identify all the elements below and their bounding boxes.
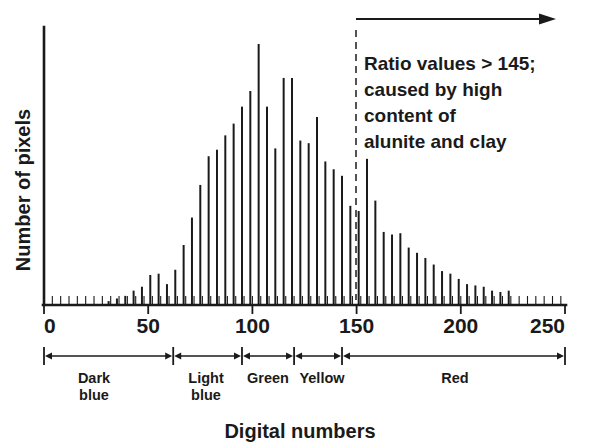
histogram-figure: 050100150200250 Ratio values > 145; caus… [0, 0, 592, 448]
x-axis-major-ticks [44, 305, 565, 314]
annotation-line-3: content of [364, 105, 456, 126]
category-span-red [343, 353, 564, 360]
x-axis-tick-label: 200 [443, 314, 478, 337]
x-axis-tick-label: 150 [339, 314, 374, 337]
category-label-dark-blue-line1: Dark [78, 370, 111, 386]
x-axis-tick-label: 250 [530, 314, 565, 337]
y-axis-title: Number of pixels [12, 109, 34, 271]
category-label-red: Red [441, 370, 468, 386]
annotation-line-4: alunite and clay [364, 131, 507, 152]
annotation-line-1: Ratio values > 145; [364, 53, 536, 74]
category-span-light-blue [174, 353, 241, 360]
category-label-group: Dark blue Light blue Green Yellow Red [78, 370, 469, 403]
category-label-light-blue-line2: blue [191, 387, 221, 403]
x-axis-title: Digital numbers [224, 420, 375, 442]
x-axis-tick-label: 50 [137, 314, 160, 337]
annotation-line-2: caused by high [364, 79, 502, 100]
x-axis-tick-labels: 050100150200250 [44, 314, 565, 337]
category-span-green [243, 353, 293, 360]
category-span-yellow [295, 353, 341, 360]
category-span-dark-blue [45, 353, 172, 360]
chart-canvas: 050100150200250 Ratio values > 145; caus… [0, 0, 592, 448]
category-scale [44, 347, 565, 365]
category-label-light-blue-line1: Light [188, 370, 224, 386]
threshold-annotation-text: Ratio values > 145; caused by high conte… [364, 53, 536, 152]
category-label-dark-blue-line2: blue [79, 387, 109, 403]
x-axis-tick-label: 0 [44, 314, 56, 337]
x-axis-tick-label: 100 [235, 314, 270, 337]
threshold-arrow [356, 14, 556, 25]
category-label-green: Green [247, 370, 289, 386]
category-label-yellow: Yellow [299, 370, 345, 386]
